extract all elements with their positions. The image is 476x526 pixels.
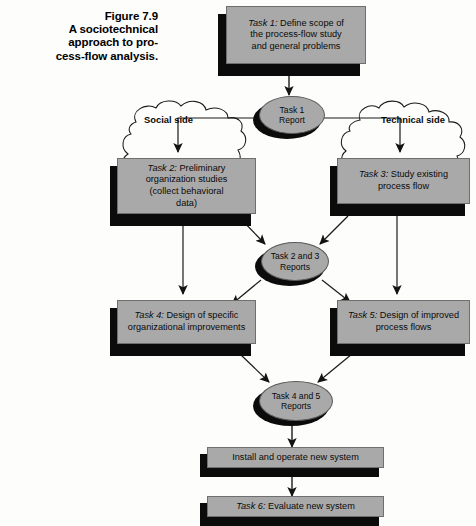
task2-tag: Task 2: <box>148 163 177 173</box>
task-box-task5[interactable]: Task 5: Design of improved process flows <box>330 300 470 356</box>
task-box-task4[interactable]: Task 4: Design of specific organizationa… <box>110 300 256 356</box>
task6-face: Task 6: Evaluate new system <box>207 496 384 517</box>
task5-text: Design of improved process flows <box>376 310 459 332</box>
task1-face: Task 1: Define scope of the process-flow… <box>226 6 366 64</box>
task5-label: Task 5: Design of improved process flows <box>344 310 463 333</box>
task-box-task3[interactable]: Task 3: Study existing process flow <box>330 158 470 216</box>
task4-tag: Task 4: <box>135 310 164 320</box>
task-box-task1[interactable]: Task 1: Define scope of the process-flow… <box>218 6 366 76</box>
task1-tag: Task 1: <box>248 18 277 28</box>
task6-label: Task 6: Evaluate new system <box>232 501 359 513</box>
task2-face: Task 2: Preliminary organization studies… <box>117 158 256 214</box>
task2-label: Task 2: Preliminary organization studies… <box>142 163 232 209</box>
report23-face: Task 2 and 3 Reports <box>261 242 329 281</box>
report1-label: Task 1 Report <box>279 105 305 125</box>
task4-label: Task 4: Design of specific organizationa… <box>124 310 249 333</box>
connector-task5-to-report45 <box>318 354 352 382</box>
cloud-label-technical: Technical side <box>381 114 445 125</box>
task-box-task2[interactable]: Task 2: Preliminary organization studies… <box>110 158 256 226</box>
report-node-task4-5-reports[interactable]: Task 4 and 5 Reports <box>253 381 333 429</box>
report1-face: Task 1 Report <box>259 96 325 134</box>
task5-tag: Task 5: <box>348 310 377 320</box>
task-box-install[interactable]: Install and operate new system <box>200 447 384 477</box>
task3-face: Task 3: Study existing process flow <box>337 158 470 204</box>
task3-text: Study existing process flow <box>378 169 448 191</box>
cloud-label-social: Social side <box>144 114 193 125</box>
report45-label: Task 4 and 5 Reports <box>272 391 321 411</box>
figure-container: Figure 7.9 A sociotechnical approach to … <box>0 0 476 526</box>
connector-task3-to-report23 <box>320 216 348 244</box>
task-box-task6[interactable]: Task 6: Evaluate new system <box>200 496 384 526</box>
task3-label: Task 3: Study existing process flow <box>355 169 452 192</box>
connector-task4-to-report45 <box>240 354 269 382</box>
install-face: Install and operate new system <box>207 447 384 468</box>
task6-text: Evaluate new system <box>265 501 354 511</box>
report23-label: Task 2 and 3 Reports <box>271 251 320 271</box>
task4-face: Task 4: Design of specific organizationa… <box>117 300 256 344</box>
task6-tag: Task 6: <box>236 501 265 511</box>
report45-face: Task 4 and 5 Reports <box>259 381 333 421</box>
task5-face: Task 5: Design of improved process flows <box>337 300 470 344</box>
install-label: Install and operate new system <box>228 452 363 464</box>
task3-tag: Task 3: <box>359 169 388 179</box>
report-node-task2-3-reports[interactable]: Task 2 and 3 Reports <box>255 242 329 288</box>
task1-label: Task 1: Define scope of the process-flow… <box>244 18 348 53</box>
report-node-task1-report[interactable]: Task 1 Report <box>253 96 325 142</box>
install-text: Install and operate new system <box>232 452 359 462</box>
